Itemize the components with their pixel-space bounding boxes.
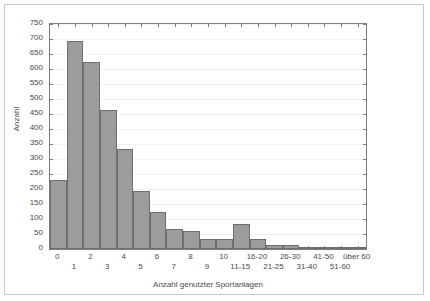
bar (67, 41, 84, 249)
x-axis-tick (191, 24, 192, 27)
x-axis-tick (175, 24, 176, 27)
bar (349, 247, 366, 249)
y-axis-tick (363, 204, 366, 205)
y-axis-tick (50, 114, 53, 115)
bar (100, 110, 117, 249)
bar (150, 212, 167, 250)
plot-area (49, 23, 367, 250)
gridline (50, 39, 366, 40)
y-axis-tick-label: 0 (9, 244, 43, 252)
x-axis-tick (75, 24, 76, 27)
x-axis-tick-label: 51-60 (316, 262, 364, 271)
y-axis-tick (363, 114, 366, 115)
y-axis-tick (363, 219, 366, 220)
y-axis-tick (363, 24, 366, 25)
y-axis-tick (50, 39, 53, 40)
y-axis-tick (363, 39, 366, 40)
y-axis-tick (363, 234, 366, 235)
x-axis-tick (358, 24, 359, 27)
y-axis-tick-label: 350 (9, 139, 43, 147)
bar (133, 191, 150, 249)
y-axis-tick-label: 650 (9, 49, 43, 57)
y-axis-tick (50, 174, 53, 175)
x-axis-tick (324, 24, 325, 27)
y-axis-tick (50, 144, 53, 145)
y-axis-tick (50, 129, 53, 130)
x-axis-tick (308, 24, 309, 27)
y-axis-tick-label: 300 (9, 154, 43, 162)
x-axis-tick (341, 24, 342, 27)
y-axis-tick-label: 200 (9, 184, 43, 192)
y-axis-tick (50, 249, 53, 250)
x-axis-tick (58, 24, 59, 27)
bar (50, 180, 67, 249)
x-axis-tick (225, 24, 226, 27)
y-axis-tick-label: 50 (9, 229, 43, 237)
y-axis-tick (363, 249, 366, 250)
x-axis-tick (275, 24, 276, 27)
bar (117, 149, 134, 249)
y-axis-tick-label: 450 (9, 109, 43, 117)
chart-figure: Anzahl 050100150200250300350400450500550… (4, 4, 424, 295)
y-axis-tick-label: 100 (9, 214, 43, 222)
y-axis-tick-label: 150 (9, 199, 43, 207)
x-axis-tick (258, 24, 259, 27)
y-axis-tick (363, 54, 366, 55)
y-axis-tick (50, 24, 53, 25)
y-axis-tick-label: 750 (9, 19, 43, 27)
gridline (50, 54, 366, 55)
bar (250, 239, 267, 249)
x-axis-title: Anzahl genutzter Sportanlagen (49, 280, 367, 289)
y-axis-tick-label: 500 (9, 94, 43, 102)
y-axis-tick (363, 99, 366, 100)
y-axis-tick (363, 84, 366, 85)
y-axis-tick (363, 129, 366, 130)
bar (266, 245, 283, 249)
bar (283, 245, 300, 249)
y-axis-tick (363, 189, 366, 190)
x-axis-tick (241, 24, 242, 27)
y-axis-tick (50, 84, 53, 85)
bar (233, 224, 250, 250)
x-axis-tick (125, 24, 126, 27)
y-axis-tick (50, 69, 53, 70)
y-axis-tick-label: 400 (9, 124, 43, 132)
y-axis-tick (363, 159, 366, 160)
y-axis-tick-label: 550 (9, 79, 43, 87)
bar (200, 239, 217, 249)
y-axis-tick-label: 250 (9, 169, 43, 177)
bar (216, 239, 233, 249)
y-axis-tick (50, 54, 53, 55)
y-axis-tick-label: 600 (9, 64, 43, 72)
y-axis-tick (363, 174, 366, 175)
bar (83, 62, 100, 249)
bar (299, 247, 316, 249)
bar (316, 247, 333, 249)
bar (166, 229, 183, 249)
bar (333, 247, 350, 249)
x-axis-tick-label: über 60 (333, 252, 381, 261)
y-axis-tick (363, 69, 366, 70)
x-axis-tick (141, 24, 142, 27)
x-axis-tick-labels: 01234567891011-1516-2021-2526-3031-4041-… (49, 252, 367, 276)
y-axis-tick-label: 700 (9, 34, 43, 42)
y-axis-tick (50, 99, 53, 100)
x-axis-tick (208, 24, 209, 27)
y-axis-tick (363, 144, 366, 145)
x-axis-tick (158, 24, 159, 27)
x-axis-tick (92, 24, 93, 27)
y-axis-tick (50, 159, 53, 160)
x-axis-tick (291, 24, 292, 27)
bar (183, 231, 200, 249)
x-axis-tick (108, 24, 109, 27)
